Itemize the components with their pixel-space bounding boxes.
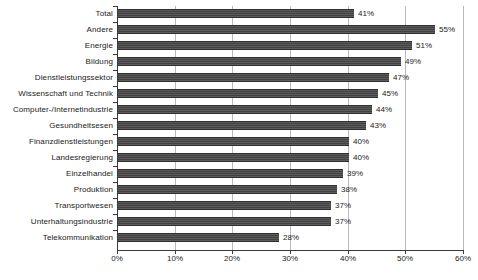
category-label: Einzelhandel <box>66 167 113 181</box>
y-axis-tick <box>113 6 117 7</box>
bar-row: Andere55% <box>0 22 478 38</box>
category-label: Bildung <box>86 55 113 69</box>
bar-row: Wissenschaft und Technik45% <box>0 86 478 102</box>
bar-value-label: 43% <box>370 119 386 133</box>
bar <box>118 217 331 226</box>
y-axis-tick <box>113 166 117 167</box>
y-axis-tick <box>113 54 117 55</box>
bar-row: Total41% <box>0 6 478 22</box>
bar <box>118 137 349 146</box>
x-axis-tick-label: 60% <box>455 254 471 263</box>
bar-rows: Total41%Andere55%Energie51%Bildung49%Die… <box>0 0 478 250</box>
bar-row: Gesundheitsesen43% <box>0 118 478 134</box>
bar <box>118 169 343 178</box>
bar-row: Transportwesen37% <box>0 198 478 214</box>
bar <box>118 105 372 114</box>
y-axis-tick <box>113 118 117 119</box>
bar-value-label: 28% <box>283 231 299 245</box>
y-axis-tick <box>113 214 117 215</box>
category-label: Telekommunikation <box>43 231 113 245</box>
bar <box>118 185 337 194</box>
bar-row: Finanzdienstleistungen40% <box>0 134 478 150</box>
bar-chart: Total41%Andere55%Energie51%Bildung49%Die… <box>0 0 478 280</box>
bar-value-label: 47% <box>393 71 409 85</box>
bar-value-label: 37% <box>335 215 351 229</box>
bar-value-label: 51% <box>416 39 432 53</box>
bar <box>118 9 354 18</box>
bar <box>118 121 366 130</box>
y-axis-tick <box>113 182 117 183</box>
x-axis-tick-label: 20% <box>224 254 240 263</box>
x-axis-tick-label: 40% <box>340 254 356 263</box>
category-label: Landesregierung <box>51 151 113 165</box>
bar-value-label: 40% <box>353 135 369 149</box>
x-axis-tick-labels: 0%10%20%30%40%50%60% <box>0 251 478 271</box>
category-label: Finanzdienstleistungen <box>29 135 113 149</box>
y-axis-tick <box>113 198 117 199</box>
bar <box>118 233 279 242</box>
category-label: Andere <box>87 23 113 37</box>
y-axis-tick <box>113 102 117 103</box>
bar-row: Telekommunikation28% <box>0 230 478 246</box>
bar-row: Landesregierung40% <box>0 150 478 166</box>
category-label: Wissenschaft und Technik <box>18 87 113 101</box>
bar-value-label: 44% <box>376 103 392 117</box>
bar <box>118 25 435 34</box>
bar-row: Bildung49% <box>0 54 478 70</box>
bar-row: Computer-/Internetindustrie44% <box>0 102 478 118</box>
category-label: Total <box>96 7 113 21</box>
category-label: Energie <box>85 39 113 53</box>
bar <box>118 89 378 98</box>
x-axis-tick-label: 10% <box>167 254 183 263</box>
bar-value-label: 49% <box>405 55 421 69</box>
category-label: Unterhaltungsindustrie <box>31 215 113 229</box>
bar-value-label: 45% <box>382 87 398 101</box>
bar-value-label: 55% <box>439 23 455 37</box>
y-axis-tick <box>113 70 117 71</box>
bar-row: Unterhaltungsindustrie37% <box>0 214 478 230</box>
bar-value-label: 40% <box>353 151 369 165</box>
x-axis-tick-label: 50% <box>397 254 413 263</box>
category-label: Produktion <box>74 183 113 197</box>
bar <box>118 57 401 66</box>
bar-value-label: 39% <box>347 167 363 181</box>
y-axis-tick <box>113 230 117 231</box>
bar-row: Energie51% <box>0 38 478 54</box>
y-axis-tick <box>113 150 117 151</box>
x-axis-tick-label: 30% <box>282 254 298 263</box>
y-axis-tick <box>113 22 117 23</box>
bar <box>118 153 349 162</box>
y-axis-tick <box>113 86 117 87</box>
category-label: Dienstleistungssektor <box>35 71 113 85</box>
y-axis-tick <box>113 38 117 39</box>
bar-row: Dienstleistungssektor47% <box>0 70 478 86</box>
bar <box>118 201 331 210</box>
bar-value-label: 37% <box>335 199 351 213</box>
bar <box>118 73 389 82</box>
category-label: Gesundheitsesen <box>49 119 113 133</box>
bar <box>118 41 412 50</box>
bar-row: Produktion38% <box>0 182 478 198</box>
category-label: Computer-/Internetindustrie <box>13 103 113 117</box>
category-label: Transportwesen <box>55 199 113 213</box>
bar-row: Einzelhandel39% <box>0 166 478 182</box>
y-axis-tick <box>113 134 117 135</box>
bar-value-label: 38% <box>341 183 357 197</box>
bar-value-label: 41% <box>358 7 374 21</box>
x-axis-tick-label: 0% <box>111 254 123 263</box>
